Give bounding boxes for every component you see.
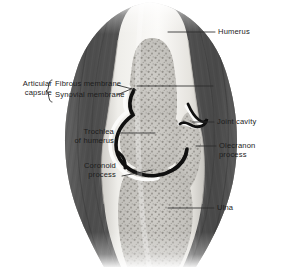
label-ulna: Ulna — [217, 203, 233, 212]
label-trochlea-of-humerus: Trochlea of humerus — [48, 127, 114, 146]
fade-bottom — [58, 232, 248, 269]
label-coronoid-process: Coronoid process — [52, 161, 116, 180]
label-fibrous-membrane: Fibrous membrane — [55, 79, 121, 88]
figure-canvas: Articular capsule Fibrous membrane Synov… — [0, 0, 301, 269]
label-joint-cavity: Joint cavity — [217, 117, 256, 126]
label-synovial-membrane: Synovial membrane — [55, 90, 125, 99]
elbow-joint-illustration — [0, 0, 301, 269]
label-olecranon-process: Olecranon process — [219, 141, 255, 160]
label-humerus: Humerus — [218, 27, 250, 36]
label-articular-capsule: Articular capsule — [6, 79, 52, 98]
